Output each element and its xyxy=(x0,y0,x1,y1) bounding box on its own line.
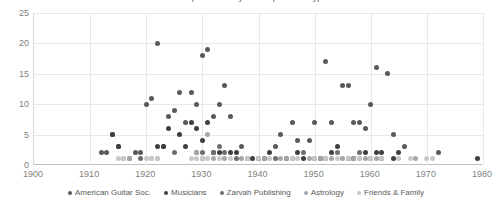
legend-marker-icon xyxy=(304,191,308,195)
x-tick-label: 1940 xyxy=(238,169,278,179)
x-tick-label: 1920 xyxy=(125,169,165,179)
chart-legend: American Guitar Soc.MusiciansZarvah Publ… xyxy=(0,188,492,198)
x-tick-label: 1930 xyxy=(181,169,221,179)
legend-label: Musicians xyxy=(171,188,207,198)
legend-label: American Guitar Soc. xyxy=(75,188,151,198)
legend-item[interactable]: American Guitar Soc. xyxy=(68,188,151,198)
legend-label: Zarvah Publishing xyxy=(227,188,291,198)
x-tick-label: 1900 xyxy=(13,169,53,179)
x-tick-label: 1910 xyxy=(69,169,109,179)
legend-item[interactable]: Friends & Family xyxy=(357,188,424,198)
x-tick-label: 1960 xyxy=(350,169,390,179)
legend-item[interactable]: Astrology xyxy=(304,188,344,198)
legend-item[interactable]: Zarvah Publishing xyxy=(220,188,291,198)
x-tick-label: 1980 xyxy=(462,169,497,179)
x-tick-label: 1970 xyxy=(406,169,446,179)
legend-marker-icon xyxy=(220,191,224,195)
legend-label: Friends & Family xyxy=(364,188,424,198)
legend-marker-icon xyxy=(164,191,168,195)
legend-label: Astrology xyxy=(311,188,344,198)
x-tick-label: 1950 xyxy=(294,169,334,179)
legend-marker-icon xyxy=(357,191,361,195)
legend-marker-icon xyxy=(68,191,72,195)
legend-item[interactable]: Musicians xyxy=(164,188,207,198)
